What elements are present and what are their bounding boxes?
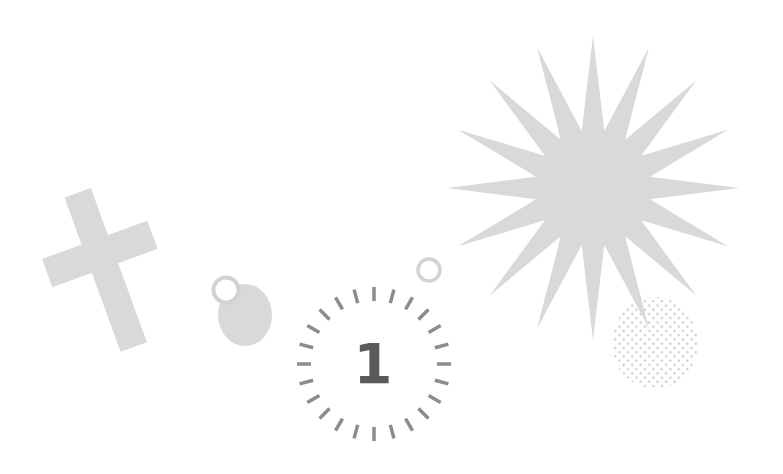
- dial-tick: [429, 396, 441, 403]
- pendant-ring: [214, 278, 239, 303]
- dial-tick: [300, 344, 314, 348]
- dial-tick: [419, 310, 429, 320]
- dial-tick: [406, 419, 413, 431]
- dial-tick: [336, 419, 343, 431]
- dial-tick: [320, 310, 330, 320]
- dial-tick: [406, 297, 413, 309]
- dotted-ellipse-shape: [612, 297, 698, 389]
- dial-tick: [435, 344, 449, 348]
- dial-tick: [429, 326, 441, 333]
- dial-tick: [307, 396, 319, 403]
- countdown-number: 1: [354, 331, 393, 396]
- starburst-shape: [447, 36, 739, 340]
- dial-tick: [354, 290, 358, 304]
- dial-tick: [336, 297, 343, 309]
- scene-canvas: 1: [0, 0, 783, 474]
- dial-tick: [307, 326, 319, 333]
- dial-tick: [300, 380, 314, 384]
- small-ring-shape: [418, 259, 440, 281]
- cross-shape: [25, 174, 186, 366]
- pendant-shape: [214, 278, 273, 347]
- dial-tick: [419, 409, 429, 419]
- dial-tick: [354, 425, 358, 439]
- dial-tick: [320, 409, 330, 419]
- dial-tick: [390, 290, 394, 304]
- dial-tick: [390, 425, 394, 439]
- dial-tick: [435, 380, 449, 384]
